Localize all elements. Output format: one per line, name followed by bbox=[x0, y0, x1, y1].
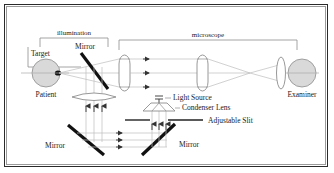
optical-diagram-svg: illumination microscope Target Patient M… bbox=[7, 7, 329, 168]
objective-lens bbox=[119, 55, 130, 91]
microscope-label: microscope bbox=[192, 31, 224, 39]
parallel-beam bbox=[130, 59, 197, 87]
mirror-top-label: Mirror bbox=[75, 42, 95, 51]
projection-lens bbox=[72, 93, 116, 101]
converging-beam bbox=[208, 59, 279, 87]
eyepiece-lens bbox=[277, 57, 286, 89]
bottom-beam-left-arrows bbox=[116, 133, 122, 147]
examiner-label: Examiner bbox=[287, 90, 317, 99]
tube-lens bbox=[197, 55, 208, 91]
target-label: Target bbox=[31, 49, 51, 58]
patient-label: Patient bbox=[36, 90, 58, 99]
mirror-bottom-right bbox=[142, 124, 175, 155]
diagram-inner-border: illumination microscope Target Patient M… bbox=[6, 6, 326, 165]
light-source-label: Light Source bbox=[173, 93, 213, 102]
condenser-lens-label: Condenser Lens bbox=[182, 103, 231, 112]
illumination-up-arrows bbox=[86, 106, 102, 112]
diagram-stage: illumination microscope Target Patient M… bbox=[7, 7, 331, 170]
mirror-bottom-right-label: Mirror bbox=[179, 140, 199, 149]
beam-direction-arrows bbox=[143, 59, 149, 87]
illumination-label: illumination bbox=[57, 29, 92, 37]
condenser-lens bbox=[143, 103, 175, 111]
diagram-frame: illumination microscope Target Patient M… bbox=[4, 4, 328, 167]
slit-down-arrows bbox=[152, 124, 166, 130]
mirror-top bbox=[81, 53, 108, 89]
microscope-bracket bbox=[119, 40, 297, 50]
adjustable-slit-label: Adjustable Slit bbox=[208, 116, 254, 125]
illumination-bracket bbox=[40, 38, 108, 47]
mirror-bottom-left-label: Mirror bbox=[45, 141, 65, 150]
